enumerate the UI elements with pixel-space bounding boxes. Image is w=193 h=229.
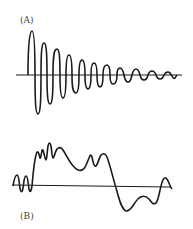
panel-b-complex-wave — [13, 143, 172, 211]
waveform-figure: (A) (B) — [0, 0, 193, 229]
waveform-svg — [0, 0, 193, 229]
panel-b-baseline — [12, 185, 170, 187]
panel-a-damped-wave — [28, 31, 177, 114]
